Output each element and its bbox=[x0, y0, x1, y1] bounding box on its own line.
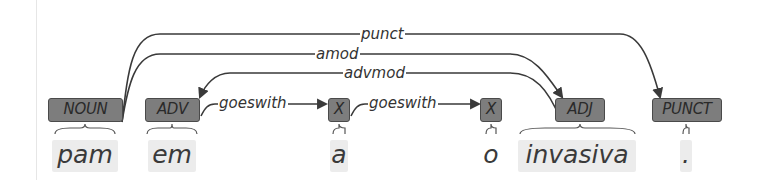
word-invasiva: invasiva bbox=[518, 140, 636, 172]
pos-tag-x-o: X bbox=[480, 98, 502, 122]
pos-tag-noun: NOUN bbox=[48, 98, 123, 122]
arc-label-advmod: advmod bbox=[343, 65, 406, 81]
pos-tag-adj: ADJ bbox=[555, 98, 605, 122]
pos-tag-adv: ADV bbox=[145, 98, 200, 122]
brace-adv bbox=[147, 124, 197, 134]
arc-label-punct: punct bbox=[360, 26, 405, 42]
arc-label-goeswith-1: goeswith bbox=[218, 95, 288, 111]
pos-tag-punct: PUNCT bbox=[652, 98, 722, 122]
word-pam: pam bbox=[52, 140, 118, 172]
brace-noun bbox=[55, 124, 115, 134]
word-em: em bbox=[148, 140, 196, 172]
arc-label-goeswith-2: goeswith bbox=[368, 95, 438, 111]
pos-tag-x-a: X bbox=[328, 98, 350, 122]
arc-label-amod: amod bbox=[315, 46, 360, 62]
word-o: o bbox=[482, 140, 500, 172]
brace-x-o bbox=[486, 124, 496, 134]
brace-punct bbox=[683, 124, 689, 134]
word-a: a bbox=[330, 140, 348, 172]
brace-adj bbox=[520, 124, 635, 134]
brace-x-a bbox=[333, 124, 345, 134]
word-period: . bbox=[680, 140, 692, 172]
